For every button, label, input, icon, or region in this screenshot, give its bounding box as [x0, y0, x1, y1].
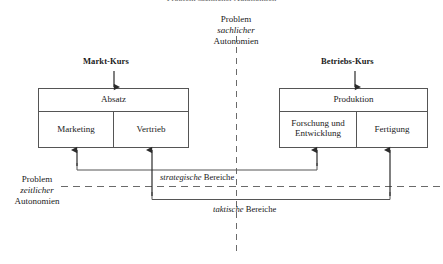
horizontal-axis-line1: Problem: [6, 174, 68, 185]
strategic-emphasis: strategische: [160, 172, 202, 182]
strategic-text: Bereiche: [204, 172, 235, 182]
diagram-canvas: Problem sachlicher Autonomien: [0, 0, 443, 264]
tactical-bracket-label: taktische Bereiche: [213, 204, 276, 214]
box-label-absatz: Absatz: [38, 94, 189, 104]
box-label-produktion: Produktion: [279, 94, 428, 104]
horizontal-axis-line2: zeitlicher: [6, 185, 68, 196]
box-label-marketing: Marketing: [38, 124, 114, 134]
box-label-fertigung: Fertigung: [356, 124, 428, 134]
tactical-emphasis: taktische: [213, 204, 244, 214]
vertical-axis-label: Problem sachlicher Autonomien: [186, 14, 286, 46]
betriebs-kurs-label: Betriebs-Kurs: [321, 57, 374, 67]
box-label-vertrieb: Vertrieb: [113, 124, 189, 134]
tactical-text: Bereiche: [246, 204, 277, 214]
horizontal-axis-line3: Autonomien: [6, 196, 68, 207]
horizontal-axis-label: Problem zeitlicher Autonomien: [6, 174, 68, 206]
strategic-bracket-label: strategische Bereiche: [160, 172, 234, 182]
strategic-bracket: [77, 163, 317, 170]
tactical-bracket: [152, 192, 390, 200]
vertical-axis-line3: Autonomien: [186, 36, 286, 47]
vertical-axis-line2: sachlicher: [186, 25, 286, 36]
markt-kurs-label: Markt-Kurs: [83, 57, 129, 67]
vertical-axis-line1: Problem: [186, 14, 286, 25]
box-label-forschung-entwicklung: Forschung und Entwicklung: [280, 118, 356, 139]
